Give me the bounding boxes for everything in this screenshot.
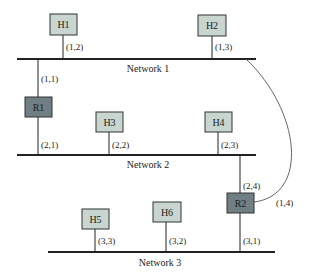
address-label: (1,2)	[66, 42, 83, 52]
host-label: H5	[89, 214, 101, 225]
address-label: (1,1)	[41, 74, 58, 84]
address-label: (2,2)	[112, 140, 129, 150]
host-label: H1	[57, 19, 69, 30]
network-label-net1: Network 1	[127, 63, 170, 74]
address-label: (3,2)	[169, 236, 186, 246]
network-label-net3: Network 3	[139, 257, 182, 268]
address-label: (2,3)	[221, 140, 238, 150]
address-label: (1,3)	[215, 42, 232, 52]
router-label: R1	[33, 102, 45, 113]
router-label: R2	[235, 198, 247, 209]
network-diagram: Network 1Network 2Network 3(1,1)(2,1)R1(…	[0, 0, 311, 278]
host-label: H3	[103, 117, 115, 128]
host-label: H6	[161, 207, 173, 218]
address-label: (2,4)	[243, 181, 260, 191]
host-label: H2	[206, 20, 218, 31]
address-label: (3,3)	[98, 236, 115, 246]
address-label: (3,1)	[243, 236, 260, 246]
address-label: (1,4)	[276, 198, 293, 208]
network-label-net2: Network 2	[127, 159, 170, 170]
address-label: (2,1)	[41, 140, 58, 150]
host-label: H4	[212, 117, 224, 128]
